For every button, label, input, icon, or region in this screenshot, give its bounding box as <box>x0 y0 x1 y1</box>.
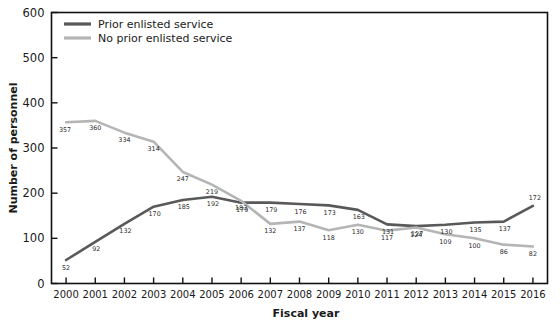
point-label: 357 <box>59 126 71 134</box>
x-tick-label: 2006 <box>228 289 253 300</box>
point-label: 124 <box>410 231 422 239</box>
x-tick-label: 2014 <box>462 289 487 300</box>
x-tick-label: 2010 <box>345 289 370 300</box>
point-label: 137 <box>499 225 511 233</box>
point-label: 179 <box>265 206 277 214</box>
point-label: 185 <box>178 203 190 211</box>
point-label: 219 <box>206 188 218 196</box>
x-tick-label: 2005 <box>199 289 224 300</box>
point-label: 82 <box>529 250 537 258</box>
point-label: 172 <box>529 194 541 202</box>
x-tick-label: 2007 <box>258 289 283 300</box>
point-label: 130 <box>440 228 452 236</box>
point-label: 314 <box>148 145 160 153</box>
point-label: 92 <box>92 245 100 253</box>
x-tick-label: 2013 <box>433 289 458 300</box>
y-tick-label: 300 <box>23 141 45 155</box>
y-tick-label: 0 <box>37 277 44 291</box>
x-axis: 2000200120022003200420052006200720082009… <box>53 278 545 300</box>
x-tick-label: 2003 <box>141 289 166 300</box>
chart-container: 0100200300400500600 20002001200220032004… <box>0 0 560 325</box>
point-value-labels: 5292132170185192179179176173163131127130… <box>59 124 541 271</box>
y-tick-label: 600 <box>23 6 45 20</box>
x-tick-label: 2008 <box>287 289 312 300</box>
point-label: 192 <box>207 200 219 208</box>
point-label: 137 <box>293 225 305 233</box>
point-label: 132 <box>119 227 131 235</box>
point-label: 173 <box>324 209 336 217</box>
x-axis-title: Fiscal year <box>273 307 340 320</box>
point-label: 132 <box>264 227 276 235</box>
x-tick-label: 2000 <box>53 289 78 300</box>
point-label: 247 <box>177 175 189 183</box>
point-label: 334 <box>118 136 130 144</box>
x-tick-label: 2011 <box>374 289 399 300</box>
y-axis-title: Number of personnel <box>7 82 20 213</box>
legend-label-1: No prior enlisted service <box>98 32 233 45</box>
point-label: 109 <box>439 238 451 246</box>
point-label: 360 <box>89 124 101 132</box>
point-label: 163 <box>353 213 365 221</box>
legend-label-0: Prior enlisted service <box>98 18 214 31</box>
point-label: 170 <box>149 210 161 218</box>
point-label: 117 <box>381 234 393 242</box>
point-label: 130 <box>352 228 364 236</box>
line-chart: 0100200300400500600 20002001200220032004… <box>0 0 560 325</box>
point-label: 86 <box>500 248 508 256</box>
point-label: 176 <box>294 208 306 216</box>
point-label: 183 <box>235 204 247 212</box>
y-tick-label: 400 <box>23 96 45 110</box>
point-label: 135 <box>469 226 481 234</box>
point-label: 100 <box>468 242 480 250</box>
x-tick-label: 2016 <box>520 289 545 300</box>
x-tick-label: 2009 <box>316 289 341 300</box>
series-lines <box>66 121 533 260</box>
y-tick-label: 100 <box>23 231 45 245</box>
x-tick-label: 2001 <box>83 289 108 300</box>
y-tick-label: 500 <box>23 51 45 65</box>
point-label: 118 <box>323 234 335 242</box>
x-tick-label: 2004 <box>170 289 195 300</box>
point-label: 52 <box>62 264 70 272</box>
x-tick-label: 2002 <box>112 289 137 300</box>
y-tick-label: 200 <box>23 186 45 200</box>
x-tick-label: 2015 <box>491 289 516 300</box>
x-tick-label: 2012 <box>403 289 428 300</box>
legend: Prior enlisted serviceNo prior enlisted … <box>64 18 233 45</box>
